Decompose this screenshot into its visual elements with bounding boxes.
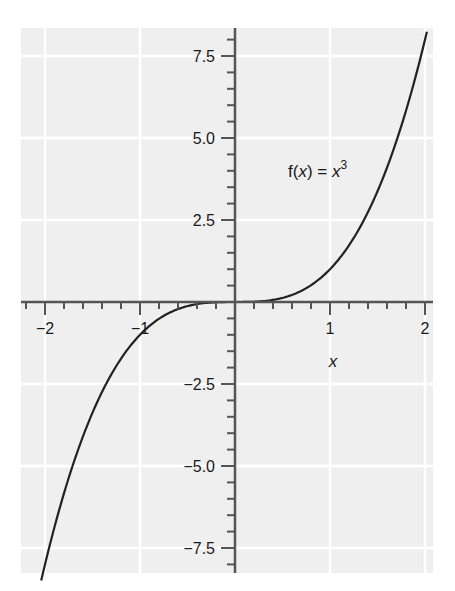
- function-annotation: f(x) = x3: [288, 158, 347, 181]
- x-tick-label: −1: [131, 320, 149, 337]
- chart-canvas: −2−112−7.5−5.0−2.52.55.07.5 x f(x) = x3: [0, 0, 455, 591]
- y-tick-label: 7.5: [193, 48, 215, 65]
- x-axis-title: x: [328, 352, 338, 371]
- x-tick-label: −2: [36, 320, 54, 337]
- y-tick-label: −5.0: [183, 458, 215, 475]
- y-tick-label: 5.0: [193, 130, 215, 147]
- x-tick-label: 1: [326, 320, 335, 337]
- x-tick-label: 2: [421, 320, 430, 337]
- y-tick-label: 2.5: [193, 212, 215, 229]
- y-tick-label: −7.5: [183, 540, 215, 557]
- plot-background: [21, 28, 433, 573]
- y-tick-label: −2.5: [183, 376, 215, 393]
